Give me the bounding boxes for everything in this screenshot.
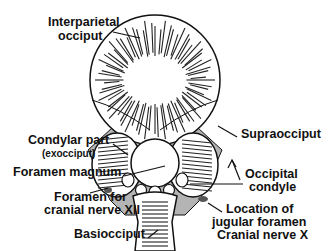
label-basiocciput: Basiocciput: [74, 227, 146, 241]
occipital-bone-diagram: Interparietal occiput Supraocciput Condy…: [0, 0, 334, 251]
label-occipital-condyle-1: Occipital: [245, 167, 298, 181]
label-hypoglossal-1: Foramen for: [54, 190, 127, 204]
label-hypoglossal-2: cranial nerve XII: [44, 203, 140, 217]
foramen-magnum: [131, 139, 179, 187]
label-jugular-3: Cranial nerve X: [217, 228, 309, 242]
interparietal-supraoccipital-plate: [90, 15, 220, 145]
jugular-foramen-mark: [198, 196, 208, 202]
label-interparietal-1: Interparietal: [48, 15, 120, 29]
label-jugular-1: Location of: [226, 202, 294, 216]
label-occipital-condyle-2: condyle: [249, 180, 296, 194]
label-jugular-2: jugular foramen: [211, 215, 306, 229]
label-supraocciput: Supraocciput: [241, 127, 322, 141]
label-condylar-2: (exocciput): [42, 148, 95, 159]
label-interparietal-2: occiput: [58, 29, 103, 43]
basiocciput: [133, 192, 177, 251]
label-foramen-magnum: Foramen magnum: [13, 165, 121, 179]
label-condylar-1: Condylar part: [28, 133, 110, 147]
